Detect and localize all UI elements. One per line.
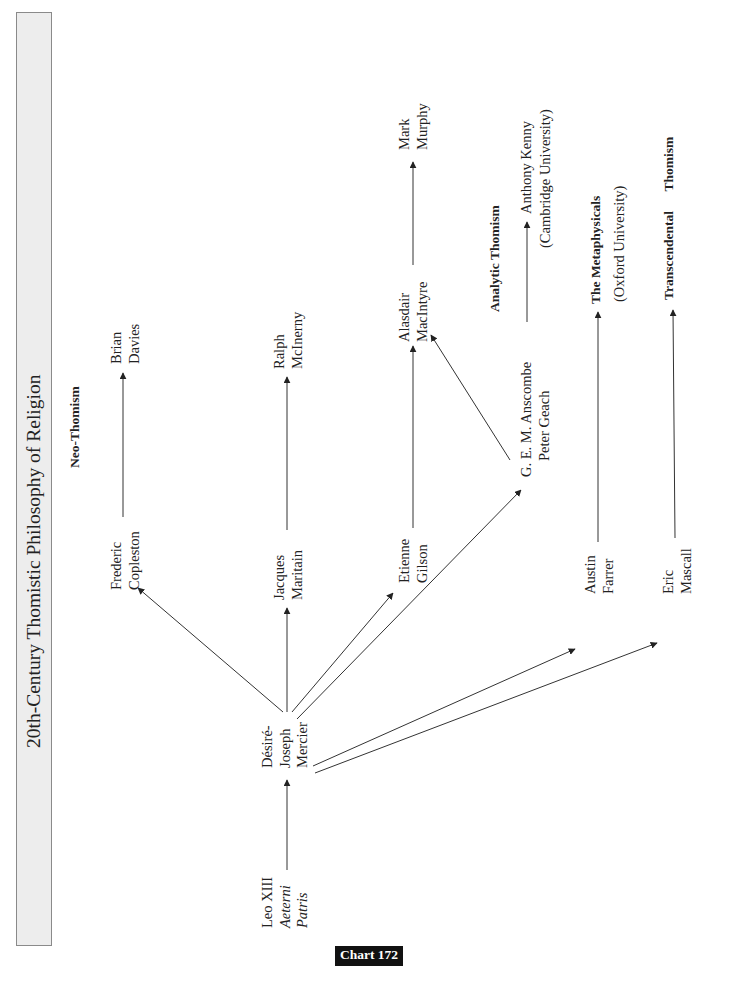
node-macintyre-line1: Alasdair: [396, 282, 414, 342]
edge-mercier-farrer: [313, 649, 575, 766]
node-anscombe-geach: G. E. M. Anscombe Peter Geach: [518, 362, 553, 477]
node-davies-line1: Brian: [108, 324, 126, 364]
node-macintyre: Alasdair MacIntyre: [396, 282, 431, 342]
node-leo-xiii: Leo XIII Aeterni Patris: [259, 877, 312, 928]
node-leo-line3: Patris: [294, 877, 312, 928]
node-maritain-line2: Maritain: [289, 550, 307, 600]
node-mcinerny-line2: McInerny: [289, 312, 307, 369]
node-mercier-line2: Joseph: [277, 722, 295, 768]
edge-mercier-copleston: [138, 588, 283, 712]
header-transcendental-line1: Transcendental: [661, 211, 676, 300]
header-neo-thomism: Neo-Thomism: [67, 386, 83, 468]
node-farrer-line2: Farrer: [600, 555, 618, 594]
node-farrer: Austin Farrer: [582, 555, 617, 594]
node-farrer-line1: Austin: [582, 555, 600, 594]
node-anscombe-line1: G. E. M. Anscombe: [518, 362, 536, 477]
edge-anscombe-macintyre: [431, 335, 510, 460]
node-copleston-line2: Copleston: [126, 531, 144, 590]
header-transcendental-line2: Thomism: [661, 137, 676, 208]
node-murphy-line2: Murphy: [414, 103, 432, 150]
edge-mascall-transcendental: [673, 310, 675, 538]
header-metaphysicals-sub: (Oxford University): [611, 186, 629, 302]
node-kenny-line1: Anthony Kenny: [518, 121, 536, 214]
node-gilson-line2: Gilson: [414, 539, 432, 583]
node-maritain: Jacques Maritain: [271, 550, 306, 600]
node-copleston: Frederic Copleston: [108, 531, 143, 590]
header-metaphysicals: The Metaphysicals: [588, 196, 604, 304]
edge-mercier-gilson: [292, 593, 393, 712]
node-anscombe-line2: Peter Geach: [536, 362, 554, 477]
node-mercier: Désiré- Joseph Mercier: [259, 722, 312, 768]
node-davies: Brian Davies: [108, 324, 143, 364]
node-maritain-line1: Jacques: [271, 550, 289, 600]
edge-mercier-anscombe: [297, 490, 521, 719]
node-murphy: Mark Murphy: [396, 103, 431, 150]
node-kenny: Anthony Kenny: [518, 121, 536, 214]
node-kenny-affiliation: (Cambridge University): [537, 109, 555, 248]
diagram-connectors: [0, 0, 746, 996]
node-gilson: Etienne Gilson: [396, 539, 431, 583]
node-mercier-line1: Désiré-: [259, 722, 277, 768]
node-mascall-line2: Mascall: [678, 548, 696, 594]
node-davies-line2: Davies: [126, 324, 144, 364]
chart-number-label: Chart 172: [335, 946, 403, 966]
header-analytic-thomism: Analytic Thomism: [487, 205, 503, 312]
node-gilson-line1: Etienne: [396, 539, 414, 583]
node-mascall: Eric Mascall: [660, 548, 695, 594]
node-copleston-line1: Frederic: [108, 531, 126, 590]
node-mcinerny-line1: Ralph: [271, 312, 289, 369]
node-mercier-line3: Mercier: [294, 722, 312, 768]
node-mascall-line1: Eric: [660, 548, 678, 594]
node-leo-line1: Leo XIII: [259, 877, 277, 928]
header-transcendental-thomism: Transcendental Thomism: [661, 137, 677, 300]
node-leo-line2: Aeterni: [277, 877, 295, 928]
node-murphy-line1: Mark: [396, 103, 414, 150]
node-macintyre-line2: MacIntyre: [414, 282, 432, 342]
edge-mercier-mascall: [315, 643, 657, 773]
node-mcinerny: Ralph McInerny: [271, 312, 306, 369]
